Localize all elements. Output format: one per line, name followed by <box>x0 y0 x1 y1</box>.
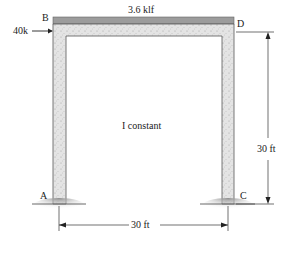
span-dimension-label: 30 ft <box>131 220 150 230</box>
node-label-C: C <box>240 191 247 201</box>
node-label-D: D <box>237 19 244 29</box>
node-label-A: A <box>40 191 47 201</box>
distributed-load-strip <box>53 17 234 24</box>
frame-members <box>53 24 234 204</box>
lateral-load-label: 40k <box>13 26 28 36</box>
distributed-load-label: 3.6 klf <box>128 5 154 15</box>
height-dimension <box>236 32 274 204</box>
inertia-note: I constant <box>122 121 161 131</box>
node-label-B: B <box>42 13 49 23</box>
height-dimension-label: 30 ft <box>257 144 276 154</box>
